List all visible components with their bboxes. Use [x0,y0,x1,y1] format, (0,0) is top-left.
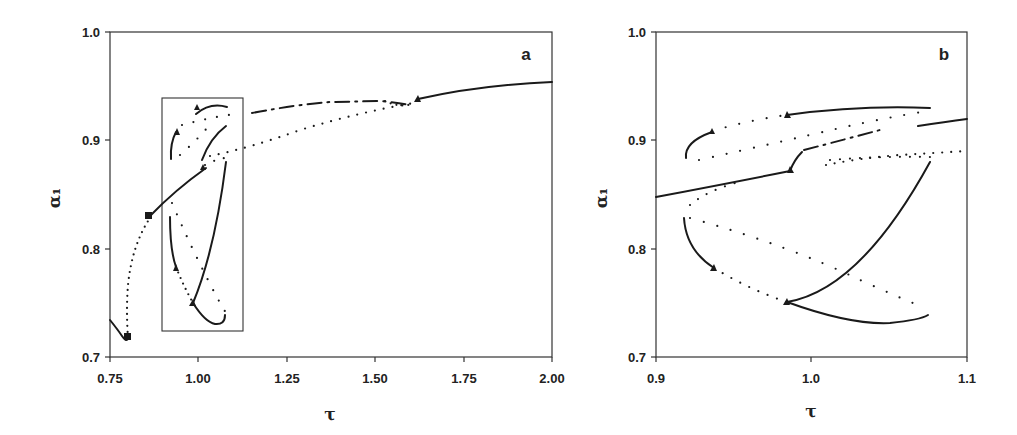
y-tick-label: 1.0 [82,25,100,40]
triangle-marker [173,264,179,271]
x-tick-label: 1.00 [185,371,210,386]
x-tick-label: 1.50 [362,371,387,386]
x-tick-label: 1.25 [274,371,299,386]
triangle-marker [174,128,180,135]
y-axis-label: α₁ [591,188,611,209]
triangle-marker [787,166,794,173]
x-tick-label: 2.00 [539,371,564,386]
triangle-marker [709,128,715,134]
panel-label: a [521,45,531,64]
y-tick-label: 0.9 [628,133,646,148]
y-axis-label: α₁ [44,188,64,209]
y-tick-label: 0.7 [82,350,100,365]
curves-a [110,82,552,340]
plot-frame-b [656,32,967,357]
markers-b [709,111,794,305]
zoom-inset-box [162,98,243,331]
x-tick-label: 0.9 [647,371,665,386]
x-tick-label: 1.75 [451,371,476,386]
triangle-marker [194,104,200,110]
square-marker [145,212,152,219]
square-marker [124,333,131,340]
y-tick-label: 0.8 [628,242,646,257]
curves-b [656,107,967,323]
panel-a: 0.75 1.00 1.25 1.50 1.75 2.00 0.7 0.8 0.… [44,25,565,424]
panel-label: b [939,45,949,64]
markers-a [124,95,421,340]
x-tick-label: 0.75 [97,371,122,386]
x-axis-label: τ [324,404,335,424]
ticks-b [651,32,967,362]
x-tick-label: 1.1 [958,371,976,386]
y-tick-label: 0.9 [82,133,100,148]
y-tick-label: 0.8 [82,242,100,257]
figure: 0.75 1.00 1.25 1.50 1.75 2.00 0.7 0.8 0.… [0,0,1017,435]
y-tick-label: 1.0 [628,25,646,40]
panel-b: 0.9 1.0 1.1 0.7 0.8 0.9 1.0 τ α₁ b [591,25,976,421]
x-axis-label: τ [805,401,816,421]
plot-frame-a [110,32,552,357]
x-ticks-a [105,32,552,362]
x-tick-label: 1.0 [802,371,820,386]
y-tick-label: 0.7 [628,350,646,365]
